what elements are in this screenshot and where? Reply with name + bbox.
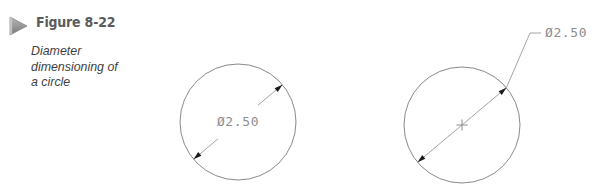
right-circle-drawing: Ø2.50 [404, 25, 587, 183]
leader-line-diagonal [506, 33, 530, 88]
diameter-dimension-text: Ø2.50 [545, 25, 587, 40]
arrowhead-upper-right [499, 88, 507, 95]
left-circle-drawing: Ø2.50 [180, 64, 296, 180]
figure-container: Figure 8-22 Diameter dimensioning of a c… [0, 0, 598, 195]
diameter-dimension-text: Ø2.50 [217, 114, 259, 129]
arrowhead-upper-right [275, 85, 283, 92]
dimension-line-through-circle [418, 88, 507, 163]
arrowhead-lower-left [418, 155, 426, 162]
arrowhead-lower-left [194, 152, 202, 159]
technical-drawing-canvas: Ø2.50 Ø2.50 [0, 0, 598, 195]
